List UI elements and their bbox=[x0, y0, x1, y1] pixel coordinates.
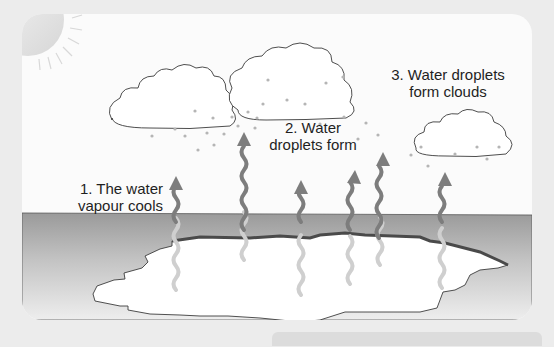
label-step-1-line-1: 1. The water bbox=[40, 180, 163, 197]
label-step-2: 2. Water droplets form bbox=[258, 119, 368, 153]
label-step-3-line-2: form clouds bbox=[373, 83, 523, 100]
bottom-tab bbox=[272, 332, 542, 346]
label-step-3: 3. Water droplets form clouds bbox=[373, 66, 523, 100]
label-step-3-line-1: 3. Water droplets bbox=[373, 66, 523, 83]
label-step-2-line-2: droplets form bbox=[258, 136, 368, 153]
label-step-2-line-1: 2. Water bbox=[258, 119, 368, 136]
label-step-1: 1. The water vapour cools bbox=[40, 180, 163, 214]
label-step-1-line-2: vapour cools bbox=[40, 197, 163, 214]
